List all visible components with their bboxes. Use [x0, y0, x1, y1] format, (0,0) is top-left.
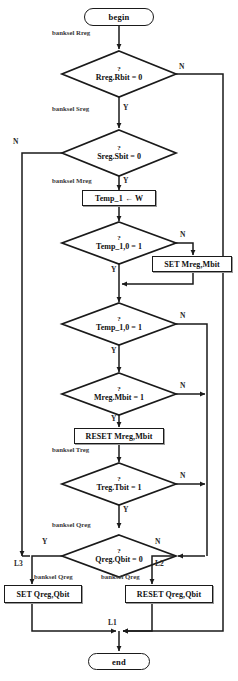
edge-setmreg-merge: [122, 272, 193, 284]
label-banksel-qreg-set: banksel Qreg: [34, 573, 73, 580]
edge-setqreg-to-l1: [32, 604, 116, 631]
label-banksel-mreg: banksel Mreg: [52, 177, 92, 184]
process-reset-mreg[interactable]: RESET Mreg,Mbit: [74, 428, 164, 444]
label-treg-yes: Y: [123, 505, 128, 514]
process-temp-load-label: Temp_1 ← W: [95, 194, 143, 203]
label-temp-b-no: N: [180, 311, 185, 320]
label-mreg-yes: Y: [111, 414, 116, 423]
label-l2: L2: [155, 559, 164, 568]
label-banksel-qreg-reset: banksel Qreg: [101, 573, 140, 580]
process-reset-qreg[interactable]: RESET Qreg,Qbit: [125, 585, 213, 603]
label-mreg-no: N: [180, 381, 185, 390]
process-set-qreg[interactable]: SET Qreg,Qbit: [4, 585, 82, 603]
label-temp-a-yes: Y: [111, 265, 116, 274]
label-rreg-no: N: [179, 62, 184, 71]
label-treg-no: N: [180, 471, 185, 480]
edge-far-right-rail-to-l1: [123, 612, 223, 631]
label-qreg-yes: Y: [42, 537, 47, 546]
node-end-label: end: [112, 657, 126, 667]
label-banksel-treg: banksel Treg: [52, 446, 89, 453]
edge-temp-a-no: [176, 243, 193, 255]
edge-resetqreg-to-l1: [123, 604, 152, 631]
label-temp-a-no: N: [180, 230, 185, 239]
decision-treg-shape: [62, 463, 176, 505]
process-set-qreg-label: SET Qreg,Qbit: [16, 590, 69, 599]
label-sreg-no: N: [13, 137, 18, 146]
label-l3: L3: [14, 559, 23, 568]
process-temp-load[interactable]: Temp_1 ← W: [82, 190, 156, 206]
node-begin[interactable]: begin: [84, 8, 154, 26]
label-banksel-rreg: banksel Rreg: [52, 29, 90, 36]
process-reset-qreg-label: RESET Qreg,Qbit: [137, 590, 201, 599]
node-end[interactable]: end: [88, 653, 150, 670]
node-begin-label: begin: [109, 12, 130, 22]
label-l1: L1: [108, 618, 117, 627]
label-banksel-qreg: banksel Qreg: [52, 521, 91, 528]
label-banksel-sreg: banksel Sreg: [52, 105, 89, 112]
decision-temp-b-shape: [62, 303, 176, 345]
label-sreg-yes: Y: [123, 176, 128, 185]
label-rreg-yes: Y: [123, 103, 128, 112]
decision-rreg-shape: [62, 51, 176, 97]
label-qreg-no: N: [155, 537, 160, 546]
process-set-mreg[interactable]: SET Mreg,Mbit: [152, 256, 232, 272]
edge-temp-b-no: [176, 324, 207, 556]
process-reset-mreg-label: RESET Mreg,Mbit: [86, 432, 153, 441]
process-set-mreg-label: SET Mreg,Mbit: [164, 260, 220, 269]
decision-mreg-shape: [62, 373, 176, 415]
edge-sreg-no: [22, 153, 62, 556]
decision-sreg-shape: [62, 130, 176, 176]
edge-rreg-no: [176, 74, 223, 612]
label-temp-b-yes: Y: [111, 346, 116, 355]
